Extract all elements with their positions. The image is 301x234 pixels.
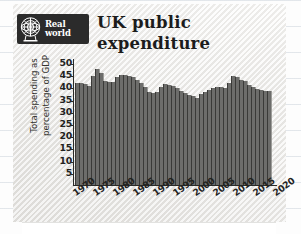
y-tick-label: 45 — [60, 70, 72, 79]
y-tick-mark — [70, 88, 73, 89]
y-tick-label: 30 — [60, 107, 72, 116]
x-axis-labels: 1970197519801985199019952000200520102015… — [73, 190, 288, 230]
y-axis-label-line1: Total spending as — [29, 35, 41, 157]
bar-chart: Total spending as percentage of GDP 5045… — [17, 58, 277, 190]
y-axis-label: Total spending as percentage of GDP — [29, 35, 52, 157]
y-tick-label: 35 — [60, 95, 72, 104]
y-tick-mark — [70, 174, 73, 175]
y-tick-mark — [70, 101, 73, 102]
y-tick-label: 40 — [60, 83, 72, 92]
plot-area — [73, 59, 277, 186]
y-tick-mark — [70, 125, 73, 126]
y-tick-mark — [70, 113, 73, 114]
y-tick-mark — [70, 137, 73, 138]
y-axis-ticks: 5045403530252015105 — [50, 58, 72, 185]
y-tick-label: 50 — [60, 58, 72, 67]
y-tick-mark — [70, 149, 73, 150]
title-line-2: expenditure — [97, 33, 277, 54]
y-tick-label: 15 — [60, 144, 72, 153]
title-line-1: UK public — [97, 13, 191, 32]
y-tick-mark — [70, 162, 73, 163]
page-root: Real world UK public expenditure Total s… — [0, 0, 301, 234]
page-title: UK public expenditure — [97, 12, 277, 54]
y-tick-label: 25 — [60, 119, 72, 128]
bar-series — [75, 59, 275, 185]
bar — [267, 91, 272, 185]
y-tick-label: 10 — [60, 156, 72, 165]
y-tick-mark — [70, 64, 73, 65]
y-tick-label: 20 — [60, 131, 72, 140]
y-axis-line — [73, 59, 74, 186]
y-tick-mark — [70, 76, 73, 77]
y-tick-label: 5 — [66, 168, 72, 177]
